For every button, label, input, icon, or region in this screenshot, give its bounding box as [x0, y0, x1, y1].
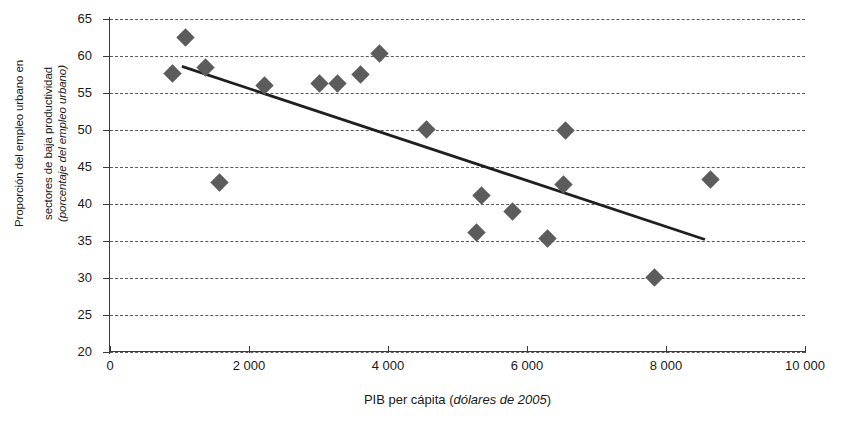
y-tick-label: 60 [46, 48, 92, 63]
data-point-marker [211, 173, 229, 191]
scatter-chart: Proporción del empleo urbano en sectores… [0, 0, 842, 422]
data-point-marker [701, 170, 719, 188]
data-point-marker [418, 120, 436, 138]
gridline [110, 315, 805, 316]
data-point-marker [468, 224, 486, 242]
data-point-marker [311, 74, 329, 92]
data-point-marker [645, 268, 663, 286]
gridline [110, 167, 805, 168]
data-point-marker [351, 65, 369, 83]
y-tick-label: 45 [46, 159, 92, 174]
data-point-marker [538, 229, 556, 247]
gridline [110, 241, 805, 242]
x-axis-title: PIB per cápita (dólares de 2005) [110, 392, 805, 407]
y-tick-label: 65 [46, 11, 92, 26]
y-tick-label: 55 [46, 85, 92, 100]
data-point-marker [554, 176, 572, 194]
x-axis-title-italic: dólares de 2005 [454, 392, 547, 407]
y-tick-label: 35 [46, 233, 92, 248]
gridline [110, 93, 805, 94]
x-tick-label: 2 000 [204, 358, 294, 373]
data-point-marker [176, 28, 194, 46]
x-axis-title-tail: ) [547, 392, 551, 407]
data-point-marker [370, 44, 388, 62]
data-point-marker [329, 74, 347, 92]
x-axis-title-plain: PIB per cápita ( [364, 392, 454, 407]
gridline [110, 352, 805, 353]
x-tick-label: 10 000 [760, 358, 842, 373]
y-tick-label: 50 [46, 122, 92, 137]
x-tick-label: 4 000 [343, 358, 433, 373]
x-tick-label: 8 000 [621, 358, 711, 373]
gridline [110, 56, 805, 57]
x-tick [805, 346, 806, 353]
x-tick-label: 6 000 [482, 358, 572, 373]
y-tick-label: 25 [46, 307, 92, 322]
gridline [110, 204, 805, 205]
y-axis-title-line1: Proporción del empleo urbano en [12, 60, 24, 227]
data-point-marker [164, 65, 182, 83]
gridline [110, 19, 805, 20]
data-point-marker [557, 121, 575, 139]
plot-area [110, 19, 805, 352]
gridline [110, 130, 805, 131]
x-tick-label: 0 [65, 358, 155, 373]
data-point-marker [472, 187, 490, 205]
y-tick-label: 20 [46, 344, 92, 359]
data-point-marker [196, 58, 214, 76]
gridline [110, 278, 805, 279]
y-tick-label: 40 [46, 196, 92, 211]
y-tick-label: 30 [46, 270, 92, 285]
